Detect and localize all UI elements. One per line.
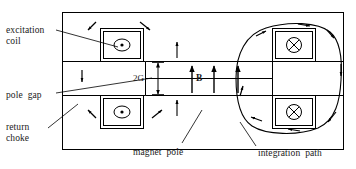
coil-top-right xyxy=(273,29,316,62)
lower-magnet-pole xyxy=(63,79,344,96)
leader-integration-path xyxy=(240,122,256,146)
magnet-cross-section-diagram xyxy=(0,0,356,169)
label-integration-path: integration path xyxy=(258,148,322,159)
leader-magnet-pole xyxy=(182,110,202,143)
label-excitation-coil: excitation coil xyxy=(6,25,44,47)
upper-magnet-pole xyxy=(63,62,344,79)
label-gap-dimension: 2G xyxy=(133,73,144,84)
label-field-symbol: B xyxy=(196,73,202,84)
coil-bottom-left xyxy=(101,96,144,129)
label-pole-gap: pole gap xyxy=(6,90,42,101)
label-magnet-pole: magnet pole xyxy=(133,147,183,158)
coil-bottom-right xyxy=(273,96,316,129)
label-return-choke: return choke xyxy=(6,122,29,144)
coil-top-left xyxy=(101,29,144,62)
